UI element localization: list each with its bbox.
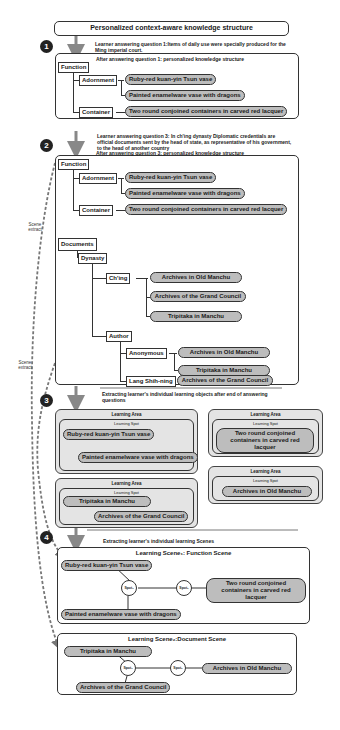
learning-area-2: Learning Area Learning Spot Two round co… bbox=[208, 409, 323, 457]
step-badge-4: 4 bbox=[40, 531, 53, 544]
ching-item-2: Archives of the Grand Council bbox=[150, 291, 246, 302]
item-lacquer: Two round conjoined containers in carved… bbox=[125, 106, 287, 117]
anonymous-item-1: Archives in Old Manchu bbox=[178, 347, 270, 358]
item-ruby-vase: Ruby-red kuan-yin Tsun vase bbox=[125, 74, 216, 85]
item-ruby-vase: Ruby-red kuan-yin Tsun vase bbox=[125, 172, 216, 183]
step-badge-1: 1 bbox=[40, 40, 53, 53]
step1-question-note: Learner answering question 1:Items of da… bbox=[95, 41, 290, 53]
spot-item: Ruby-red kuan-yin Tsun vase bbox=[63, 429, 154, 440]
page-title: Personalized context-aware knowledge str… bbox=[54, 21, 289, 36]
learning-scene-2: Learning Scene₂:Document Scene Tripitaka… bbox=[57, 633, 297, 695]
learning-spots: Learning Spot Archives in Old Manchu bbox=[212, 476, 319, 501]
spot-item: Two round conjoined containers in carved… bbox=[216, 428, 314, 453]
spot-item: Archives in Old Manchu bbox=[222, 486, 312, 497]
step1-result-note: After answering question 1: personalized… bbox=[96, 56, 244, 62]
spot-item: Tripitaka in Manchu bbox=[63, 496, 151, 507]
node-container: Container bbox=[79, 107, 113, 118]
scene2-item-3: Archives of the Grand Council bbox=[76, 682, 170, 693]
node-ching: Ch'ing bbox=[106, 273, 130, 284]
spot-item: Archives of the Grand Council bbox=[94, 511, 188, 522]
step1-structure-frame: After answering question 1: personalized… bbox=[55, 53, 299, 119]
learning-scene-1: Learning Scene₁: Function Scene Ruby-red… bbox=[57, 547, 310, 624]
step-badge-3: 3 bbox=[40, 394, 53, 407]
item-enamel-vase: Painted enamelware vase with dragons bbox=[125, 90, 245, 101]
scene1-item-3: Painted enamelware vase with dragons bbox=[61, 609, 181, 620]
scene-extract-label-1: Scene extract bbox=[24, 222, 46, 232]
learning-spots: Learning Spot Ruby-red kuan-yin Tsun vas… bbox=[59, 419, 194, 471]
step-badge-2: 2 bbox=[40, 139, 53, 152]
step4-note: Extracting learner's individual learning… bbox=[103, 538, 214, 544]
scene2-item-2: Archives in Old Manchu bbox=[202, 663, 292, 674]
learning-spots: Learning Spot Tripitaka in Manchu Archiv… bbox=[59, 488, 194, 525]
step2-question-note: Learner answering question 3: In ch'ing … bbox=[97, 133, 292, 151]
scene1-spot-1: Spot₁ bbox=[121, 580, 137, 596]
scene1-item-1: Ruby-red kuan-yin Tsun vase bbox=[61, 560, 152, 571]
node-anonymous: Anonymous bbox=[126, 348, 167, 359]
step2-structure-frame: After answering question 3: personalized… bbox=[55, 155, 299, 385]
node-lang-shih-ning: Lang Shih-ning bbox=[126, 376, 176, 387]
node-author: Author bbox=[106, 331, 132, 342]
ching-item-3: Tripitaka in Manchu bbox=[150, 311, 242, 322]
step3-note: Extracting learner's individual learning… bbox=[102, 391, 272, 403]
learning-area-1: Learning Area Learning Spot Ruby-red kua… bbox=[55, 409, 198, 474]
node-container: Container bbox=[79, 205, 113, 216]
scene2-item-1: Tripitaka in Manchu bbox=[64, 646, 152, 657]
learning-area-3: Learning Area Learning Spot Tripitaka in… bbox=[55, 478, 198, 528]
item-enamel-vase: Painted enamelware vase with dragons bbox=[125, 188, 245, 199]
ching-item-1: Archives in Old Manchu bbox=[150, 272, 242, 283]
scene1-spot-2: Spot₂ bbox=[176, 580, 192, 596]
node-adornment: Adornment bbox=[79, 75, 117, 86]
learning-area-title: Learning Area bbox=[56, 412, 197, 417]
node-adornment: Adornment bbox=[79, 173, 117, 184]
learning-area-4: Learning Area Learning Spot Archives in … bbox=[208, 466, 323, 504]
item-lacquer: Two round conjoined containers in carved… bbox=[125, 204, 287, 215]
scene2-spot-2: Spot₂ bbox=[170, 660, 186, 676]
spot-item: Painted enamelware vase with dragons bbox=[78, 452, 198, 463]
learning-spots: Learning Spot Two round conjoined contai… bbox=[212, 419, 319, 454]
lang-item-1: Archives of the Grand Council bbox=[177, 375, 273, 386]
scene-extract-label-2: Scene extract bbox=[14, 360, 36, 370]
scene1-item-2: Two round conjoined containers in carved… bbox=[206, 578, 306, 603]
scene2-spot-1: Spot₁ bbox=[120, 660, 136, 676]
step2-result-note: After answering question 3: personalized… bbox=[96, 150, 244, 156]
